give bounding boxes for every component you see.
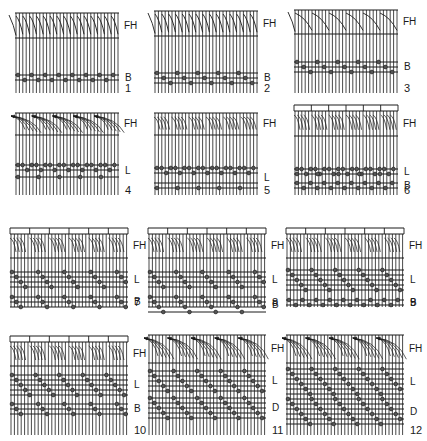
- diagram-panel-8: FHLB8: [148, 222, 296, 321]
- panel-drawing: [294, 103, 402, 197]
- label-fh: FH: [133, 241, 146, 251]
- label-row-l: L: [264, 173, 270, 183]
- label-fh: FH: [133, 349, 146, 359]
- label-row-l: L: [410, 275, 416, 285]
- label-fh: FH: [271, 241, 284, 251]
- panel-number: 5: [264, 185, 270, 196]
- panel-number: 11: [272, 425, 283, 436]
- label-fh: FH: [409, 241, 422, 251]
- panel-number: 3: [404, 83, 410, 94]
- panel-number: 4: [125, 185, 131, 196]
- diagram-panel-1: FHB1: [15, 5, 149, 107]
- diagram-panel-11: FHLD11: [148, 333, 296, 441]
- panel-drawing: [15, 5, 123, 95]
- label-row-l: L: [134, 380, 140, 390]
- label-fh: FH: [124, 119, 137, 129]
- panel-drawing: [148, 222, 270, 309]
- diagram-panel-4: FHL4: [15, 110, 149, 209]
- diagram-panel-9: FHLB9: [286, 222, 427, 321]
- panel-number: 12: [410, 425, 422, 436]
- panel-drawing: [154, 110, 262, 197]
- label-fh: FH: [403, 17, 416, 27]
- diagram-panel-3: FHB3: [294, 5, 427, 107]
- panel-number: 7: [134, 297, 140, 308]
- panel-drawing: [10, 330, 132, 437]
- panel-number: 2: [264, 83, 270, 94]
- panel-drawing: [286, 222, 408, 309]
- label-row-l: L: [410, 377, 416, 387]
- label-row-b: B: [134, 404, 141, 414]
- label-row-l: L: [125, 166, 131, 176]
- panel-number: 6: [404, 185, 410, 196]
- diagram-panel-12: FHLD12: [286, 333, 427, 441]
- panel-drawing: [15, 110, 123, 197]
- panel-drawing: [154, 5, 262, 95]
- label-fh: FH: [271, 344, 284, 354]
- diagram-panel-7: FHLB7: [10, 222, 158, 321]
- diagram-panel-5: FHL5: [154, 110, 288, 209]
- label-fh: FH: [403, 119, 416, 129]
- label-row-l: L: [272, 275, 278, 285]
- label-row-b: B: [125, 73, 132, 83]
- label-row-l: L: [272, 376, 278, 386]
- label-fh: FH: [263, 119, 276, 129]
- panel-number: 1: [125, 83, 131, 94]
- panel-number: 9: [410, 297, 416, 308]
- label-fh: FH: [409, 344, 422, 354]
- panel-drawing: [286, 333, 408, 437]
- panel-drawing: [148, 333, 270, 437]
- label-row-d: D: [410, 407, 417, 417]
- label-fh: FH: [124, 21, 137, 31]
- diagram-panel-2: FHB2: [154, 5, 288, 107]
- label-row-d: D: [272, 403, 279, 413]
- panel-drawing: [294, 5, 402, 95]
- label-row-b: B: [404, 62, 411, 72]
- label-row-l: L: [404, 167, 410, 177]
- label-row-l: L: [134, 275, 140, 285]
- panel-number: 10: [134, 425, 146, 436]
- panel-drawing: [10, 222, 132, 309]
- diagram-panel-10: FHLB10: [10, 330, 158, 441]
- diagram-panel-6: FHLB6: [294, 103, 427, 209]
- label-fh: FH: [263, 19, 276, 29]
- panel-number: 8: [272, 297, 278, 308]
